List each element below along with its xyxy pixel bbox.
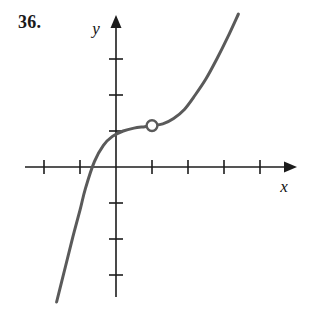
graph-figure: y x (0, 0, 310, 323)
x-axis-label: x (279, 177, 288, 196)
y-axis-arrowhead (111, 15, 122, 28)
function-curve (57, 14, 239, 302)
open-circle-hole-marker (147, 120, 158, 131)
figure-page: 36. y x (0, 0, 310, 323)
x-axis-arrowhead (284, 162, 297, 173)
y-axis-label: y (90, 19, 100, 38)
